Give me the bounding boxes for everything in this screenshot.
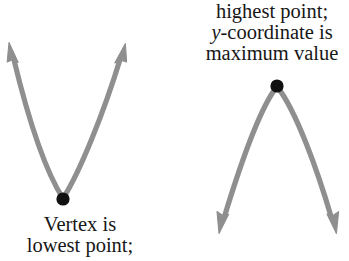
minimum-caption-line-2: lowest point;: [1, 235, 159, 256]
minimum-caption: Vertex is lowest point;: [1, 214, 159, 256]
maximum-caption-line-1: highest point;: [196, 1, 348, 22]
downward-parabola-vertex-point: [270, 79, 283, 92]
maximum-caption-line-2-rest: -coordinate is: [220, 21, 332, 43]
minimum-caption-line-1: Vertex is: [1, 214, 159, 235]
maximum-caption-line-3: maximum value: [196, 43, 348, 64]
maximum-caption: highest point; y-coordinate is maximum v…: [196, 1, 348, 64]
upward-parabola-vertex-point: [56, 192, 69, 205]
maximum-caption-line-2: y-coordinate is: [196, 22, 348, 43]
